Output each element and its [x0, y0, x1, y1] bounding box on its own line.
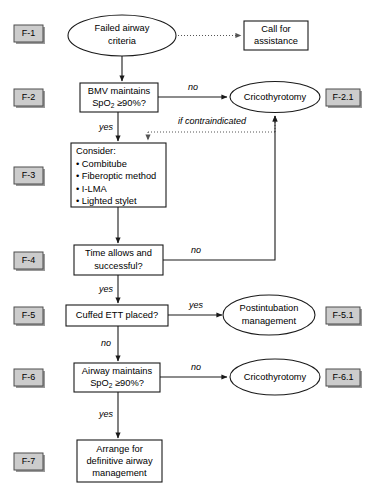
edge-label-bmv-no: no [188, 82, 198, 92]
cricothyrotomy-2-label: Cricothyrotomy [244, 372, 307, 382]
edge-time-no-to-cricothyrotomy [163, 116, 275, 260]
step-tag-f2[interactable]: F-2 [14, 89, 45, 108]
step-tag-f1[interactable]: F-1 [14, 25, 45, 44]
node-arrange-definitive-airway[interactable]: Arrange for definitive airway management [77, 440, 162, 482]
f2-tag-label: F-2 [22, 92, 36, 102]
node-cricothyrotomy-2[interactable]: Cricothyrotomy [230, 359, 320, 395]
edge-label-airway-yes: yes [98, 409, 114, 419]
svg-text:SpO2 ≥90%?: SpO2 ≥90%? [92, 98, 146, 109]
f61-tag-label: F-6.1 [332, 372, 353, 382]
svg-text:SpO2 ≥90%?: SpO2 ≥90%? [90, 378, 144, 389]
consider-item-2: • I-LMA [76, 184, 107, 194]
node-postintubation-management[interactable]: Postintubation management [223, 295, 315, 335]
f5-tag-label: F-5 [22, 310, 36, 320]
node-time-allows-successful[interactable]: Time allows and successful? [74, 245, 163, 275]
consider-item-1: • Fiberoptic method [76, 171, 156, 181]
bmv-threshold: ≥90%? [114, 98, 145, 108]
consider-item-3: • Lighted stylet [76, 196, 137, 206]
node-bmv-maintains[interactable]: BMV maintains SpO2 ≥90%? [80, 83, 158, 112]
step-tag-f5[interactable]: F-5 [14, 307, 45, 326]
edge-label-time-yes: yes [98, 284, 114, 294]
node-consider-options[interactable]: Consider: • Combitube • Fiberoptic metho… [71, 143, 166, 207]
node-cricothyrotomy-1[interactable]: Cricothyrotomy [230, 82, 320, 113]
airway-spo2-label: SpO [90, 378, 109, 388]
edge-label-bmv-yes: yes [98, 122, 114, 132]
step-tag-f51[interactable]: F-5.1 [326, 307, 362, 326]
f1-tag-label: F-1 [22, 28, 36, 38]
edge-label-if-contraindicated: if contraindicated [178, 116, 247, 126]
cuffed-ett-label: Cuffed ETT placed? [76, 310, 158, 320]
f21-tag-label: F-2.1 [332, 92, 353, 102]
airway-threshold: ≥90%? [112, 378, 143, 388]
node-airway-maintains[interactable]: Airway maintains SpO2 ≥90%? [74, 363, 160, 392]
f4-tag-label: F-4 [22, 255, 36, 265]
f3-tag-label: F-3 [22, 170, 36, 180]
step-tag-f61[interactable]: F-6.1 [326, 369, 362, 388]
call-assistance-line2: assistance [254, 36, 298, 46]
failed-airway-line2: criteria [108, 36, 137, 46]
time-allows-line1: Time allows and [85, 248, 152, 258]
step-tag-f6[interactable]: F-6 [14, 369, 45, 388]
postintubation-line1: Postintubation [240, 303, 299, 313]
step-tag-f7[interactable]: F-7 [14, 453, 45, 472]
arrange-line3: management [92, 468, 147, 478]
edge-label-airway-no: no [191, 362, 201, 372]
cricothyrotomy-1-label: Cricothyrotomy [244, 92, 307, 102]
consider-item-0: • Combitube [76, 159, 127, 169]
bmv-line1: BMV maintains [88, 86, 151, 96]
f51-tag-label: F-5.1 [332, 310, 353, 320]
step-tag-f21[interactable]: F-2.1 [326, 89, 362, 108]
postintubation-line2: management [242, 316, 297, 326]
f7-tag-label: F-7 [22, 456, 36, 466]
edge-label-time-no: no [191, 245, 201, 255]
f6-tag-label: F-6 [22, 372, 36, 382]
flowchart-canvas: no yes if contraindicated no yes yes no … [0, 0, 369, 492]
airway-line1: Airway maintains [82, 366, 153, 376]
node-failed-airway-criteria[interactable]: Failed airway criteria [68, 15, 176, 56]
failed-airway-flowchart: no yes if contraindicated no yes yes no … [0, 0, 369, 492]
consider-heading: Consider: [76, 146, 116, 156]
node-cuffed-ett-placed[interactable]: Cuffed ETT placed? [66, 305, 168, 326]
step-tag-f3[interactable]: F-3 [14, 167, 45, 186]
edge-label-ett-no: no [101, 338, 111, 348]
edge-label-ett-yes: yes [188, 300, 204, 310]
failed-airway-line1: Failed airway [95, 23, 150, 33]
step-tag-f4[interactable]: F-4 [14, 252, 45, 271]
arrange-line2: definitive airway [86, 456, 152, 466]
time-allows-line2: successful? [94, 261, 143, 271]
node-call-for-assistance[interactable]: Call for assistance [244, 21, 308, 50]
bmv-spo2-label: SpO [92, 98, 111, 108]
arrange-line1: Arrange for [96, 444, 143, 454]
call-assistance-line1: Call for [261, 24, 290, 34]
